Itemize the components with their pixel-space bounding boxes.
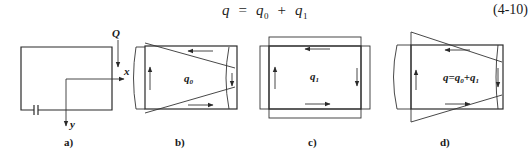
x-axis-label: x [123, 65, 130, 77]
panel-c: q1 c) [260, 37, 370, 149]
section-outline [21, 47, 112, 110]
caption-b: b) [175, 136, 185, 149]
shear-flow-curve-left [394, 45, 412, 109]
flow-label-q-sum: q=q0+q1 [443, 71, 479, 85]
flow-label-q0: q0 [184, 72, 194, 86]
panel-a: Q x y a) [21, 27, 130, 149]
flow-label-q1: q1 [310, 70, 319, 84]
caption-d: d) [440, 136, 450, 149]
panel-d: q=q0+q1 d) [394, 32, 504, 149]
shear-flow-curve-right [226, 47, 229, 109]
shear-flow-curve-left [134, 47, 146, 109]
y-axis-label: y [68, 118, 75, 130]
figure: Q x y a) q0 b) q1 c) [0, 0, 532, 153]
panel-b: q0 b) [134, 43, 238, 149]
caption-c: c) [308, 136, 317, 149]
load-label: Q [112, 27, 120, 39]
caption-a: a) [64, 136, 74, 149]
